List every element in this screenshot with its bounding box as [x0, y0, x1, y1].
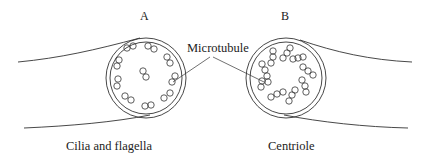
panel-b-label: B: [281, 10, 289, 22]
centriole-lower-line: [284, 115, 408, 128]
panel-b-caption: Centriole: [268, 140, 315, 153]
callout-line-to-b: [213, 57, 264, 82]
diagram-drawing: [0, 0, 426, 163]
cilium-lower-membrane: [24, 115, 150, 128]
callout-line-to-a: [173, 57, 210, 82]
microtubule-callout-label: Microtubule: [187, 42, 249, 55]
panel-b-drawing: [246, 38, 412, 128]
panel-a-label: A: [140, 10, 149, 22]
microtubule-diagram: A B Microtubule Cilia and flagella Centr…: [0, 0, 426, 163]
cilium-outer-membrane: [106, 38, 186, 118]
triplet-microtubules: [258, 45, 316, 104]
central-pair-microtubules: [140, 68, 149, 80]
panel-a-caption: Cilia and flagella: [66, 140, 152, 153]
panel-a-drawing: [18, 38, 186, 128]
doublet-microtubules: [114, 43, 178, 109]
